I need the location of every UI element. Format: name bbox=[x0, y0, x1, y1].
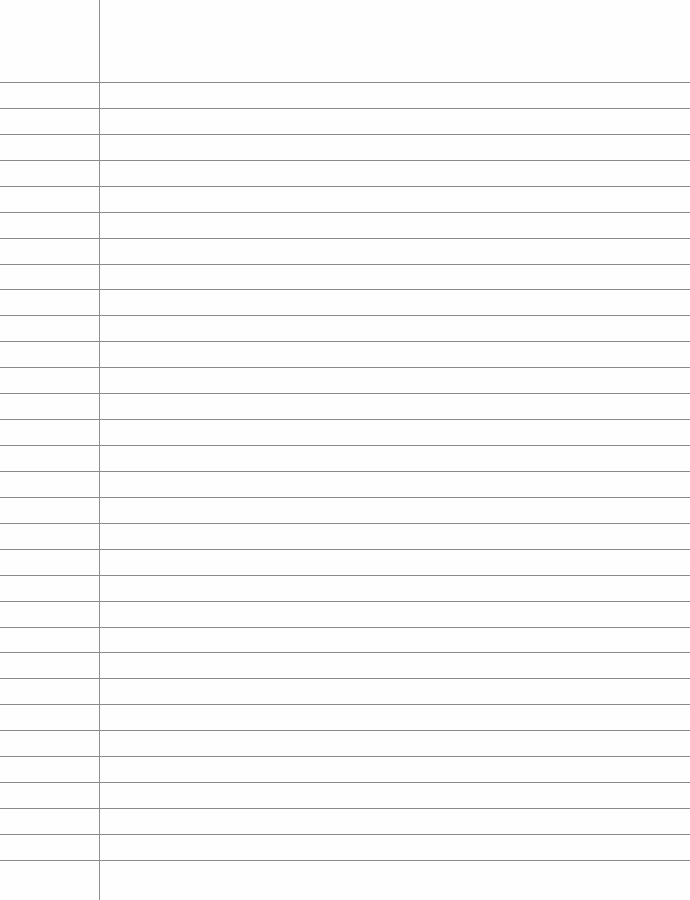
ruled-line bbox=[0, 341, 690, 342]
ruled-line bbox=[0, 704, 690, 705]
ruled-line bbox=[0, 186, 690, 187]
ruled-line bbox=[0, 730, 690, 731]
ruled-line bbox=[0, 678, 690, 679]
ruled-line bbox=[0, 834, 690, 835]
ruled-line bbox=[0, 367, 690, 368]
margin-line bbox=[99, 0, 100, 900]
ruled-line bbox=[0, 238, 690, 239]
ruled-line bbox=[0, 808, 690, 809]
ruled-line bbox=[0, 782, 690, 783]
ruled-line bbox=[0, 627, 690, 628]
ruled-line bbox=[0, 160, 690, 161]
ruled-line bbox=[0, 134, 690, 135]
ruled-line bbox=[0, 82, 690, 83]
ruled-line bbox=[0, 212, 690, 213]
ruled-line bbox=[0, 575, 690, 576]
ruled-line bbox=[0, 315, 690, 316]
ruled-line bbox=[0, 471, 690, 472]
ruled-line bbox=[0, 419, 690, 420]
ruled-line bbox=[0, 264, 690, 265]
ruled-line bbox=[0, 652, 690, 653]
ruled-line bbox=[0, 108, 690, 109]
ruled-line bbox=[0, 497, 690, 498]
ruled-line bbox=[0, 601, 690, 602]
ruled-line bbox=[0, 445, 690, 446]
ruled-line bbox=[0, 393, 690, 394]
ruled-line bbox=[0, 523, 690, 524]
ruled-line bbox=[0, 289, 690, 290]
lined-paper bbox=[0, 0, 690, 900]
ruled-line bbox=[0, 860, 690, 861]
ruled-line bbox=[0, 549, 690, 550]
ruled-line bbox=[0, 756, 690, 757]
